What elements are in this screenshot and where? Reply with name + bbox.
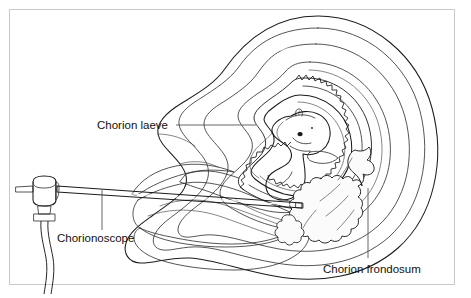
- scope-cable: [41, 221, 47, 294]
- embryo-nostril: [311, 127, 313, 129]
- uterine-fold-shade-2: [158, 134, 195, 146]
- embryo-eye: [297, 132, 302, 136]
- scope-cable-2: [48, 221, 54, 294]
- scope-body: [33, 176, 56, 206]
- label-chorionoscope: Chorionoscope: [57, 232, 134, 244]
- scope-collar-ring: [34, 214, 55, 221]
- label-chorion-frondosum: Chorion frondosum: [323, 263, 421, 275]
- chorionoscopy-illustration: Chorion laeve Chorionoscope Chorion fron…: [0, 0, 471, 298]
- scope-collar: [38, 206, 51, 214]
- scope-body-left-cap: [33, 182, 56, 188]
- figure-root: Chorion laeve Chorionoscope Chorion fron…: [0, 0, 471, 298]
- embryo-eye-highlight: [299, 131, 300, 132]
- label-chorion-laeve: Chorion laeve: [97, 119, 168, 131]
- scope-eyepiece-stub: [16, 186, 33, 192]
